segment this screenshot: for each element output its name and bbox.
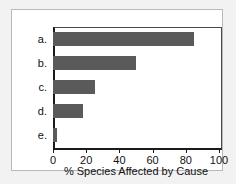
category-label: c. bbox=[38, 75, 47, 99]
category-label: b. bbox=[38, 51, 47, 75]
bar-row: a. bbox=[53, 27, 219, 51]
bar-row: b. bbox=[53, 51, 219, 75]
bar bbox=[53, 56, 136, 70]
category-label: e. bbox=[38, 123, 47, 147]
bar-row: c. bbox=[53, 75, 219, 99]
x-tick bbox=[219, 149, 220, 153]
category-label: a. bbox=[38, 27, 47, 51]
x-tick bbox=[119, 149, 120, 153]
x-tick bbox=[186, 149, 187, 153]
x-axis-title: % Species Affected by Cause bbox=[53, 165, 219, 177]
bar-row: e. bbox=[53, 123, 219, 147]
x-tick bbox=[153, 149, 154, 153]
bar bbox=[53, 128, 57, 142]
bar-row: d. bbox=[53, 99, 219, 123]
x-tick bbox=[53, 149, 54, 153]
bar bbox=[53, 104, 83, 118]
bar bbox=[53, 80, 95, 94]
bar bbox=[53, 32, 194, 46]
x-tick bbox=[86, 149, 87, 153]
figure-frame: a.b.c.d.e. 020406080100 % Species Affect… bbox=[11, 9, 223, 171]
category-label: d. bbox=[38, 99, 47, 123]
